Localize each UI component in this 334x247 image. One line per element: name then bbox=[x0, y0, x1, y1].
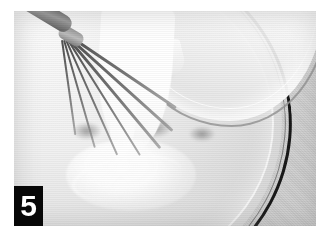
step-number-badge: 5 bbox=[14, 186, 43, 226]
whisk-tine bbox=[69, 35, 177, 109]
page-root: 5 bbox=[0, 0, 334, 247]
recipe-step-photo: 5 bbox=[14, 11, 316, 226]
step-number-label: 5 bbox=[20, 191, 37, 221]
whisk-tine bbox=[68, 39, 162, 150]
whisk-handle bbox=[14, 11, 75, 35]
whisk bbox=[14, 11, 316, 226]
